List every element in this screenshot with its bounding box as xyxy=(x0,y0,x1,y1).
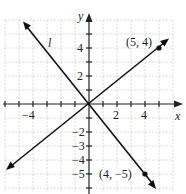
x-tick-label-neg4: −4 xyxy=(22,109,35,121)
coordinate-plane xyxy=(0,0,186,194)
y-tick-label-neg2: −2 xyxy=(72,126,85,138)
y-tick-label-neg4: −4 xyxy=(72,154,85,166)
y-axis-label: y xyxy=(78,10,83,22)
y-tick-label-neg3: −3 xyxy=(72,140,85,152)
x-axis-label: x xyxy=(175,110,180,122)
point-label-4-neg5: (4, −5) xyxy=(99,168,132,180)
point-4-neg5 xyxy=(142,171,147,176)
point-5-4 xyxy=(156,45,161,50)
line-l-label: l xyxy=(48,37,51,49)
y-tick-label-2: 2 xyxy=(77,70,83,82)
y-tick-label-4: 4 xyxy=(77,42,83,54)
point-label-5-4: (5, 4) xyxy=(126,36,152,48)
y-tick-label-neg5: −5 xyxy=(72,168,85,180)
x-tick-label-2: 2 xyxy=(113,109,119,121)
x-axis xyxy=(3,101,183,108)
x-tick-label-4: 4 xyxy=(141,109,147,121)
